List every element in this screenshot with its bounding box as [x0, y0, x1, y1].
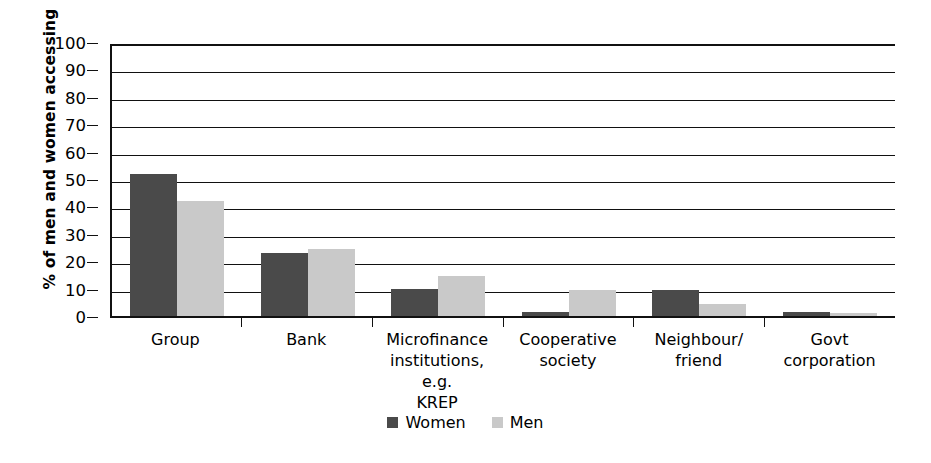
bar-chart: % of men and women accessing 10090807060…	[0, 0, 931, 463]
bar-men	[177, 201, 224, 316]
x-tick-mark	[764, 318, 765, 327]
x-axis-label-2: Microfinanceinstitutions, e.g.KREP	[372, 329, 503, 413]
bar-group	[373, 45, 504, 316]
bar-group	[634, 45, 765, 316]
y-tick-mark-0	[87, 317, 98, 318]
x-axis-label-line: society	[504, 350, 631, 371]
x-axis-label-line: friend	[635, 350, 762, 371]
x-axis-label-0: Group	[110, 329, 241, 413]
y-tick-mark-90	[87, 70, 98, 71]
y-tick-mark-100	[87, 43, 98, 44]
x-axis-label-line: Microfinance	[374, 329, 501, 350]
bar-group	[765, 45, 896, 316]
y-tick-label-30: 30	[65, 228, 86, 245]
x-axis-label-line: Govt	[766, 329, 893, 350]
y-tick-label-80: 80	[65, 91, 86, 108]
x-axis-label-1: Bank	[241, 329, 372, 413]
y-tick-mark-60	[87, 153, 98, 154]
legend-swatch-icon	[492, 417, 503, 428]
x-axis-label-4: Neighbour/friend	[633, 329, 764, 413]
bar-women	[391, 289, 438, 316]
y-tick-mark-40	[87, 207, 98, 208]
y-tick-label-40: 40	[65, 200, 86, 217]
y-tick-label-100: 100	[55, 36, 87, 53]
legend-swatch-icon	[387, 417, 398, 428]
x-axis-label-line: institutions, e.g.	[374, 350, 501, 392]
x-tick-mark	[633, 318, 634, 327]
chart-legend: WomenMen	[0, 413, 931, 432]
y-tick-label-90: 90	[65, 63, 86, 80]
x-axis-label-line: Bank	[243, 329, 370, 350]
bar-group	[112, 45, 243, 316]
y-tick-mark-10	[87, 290, 98, 291]
bar-men	[699, 304, 746, 316]
bar-men	[438, 276, 485, 316]
y-tick-label-0: 0	[76, 310, 87, 327]
y-axis-ticks: 1009080706050403020100	[0, 44, 110, 318]
bar-men	[308, 249, 355, 316]
y-tick-mark-70	[87, 125, 98, 126]
bar-group	[243, 45, 374, 316]
y-tick-label-70: 70	[65, 118, 86, 135]
x-axis-label-5: Govtcorporation	[764, 329, 895, 413]
legend-item-men: Men	[492, 413, 544, 432]
bar-group	[504, 45, 635, 316]
y-tick-mark-30	[87, 235, 98, 236]
legend-item-women: Women	[387, 413, 465, 432]
y-tick-label-50: 50	[65, 173, 86, 190]
y-tick-label-60: 60	[65, 145, 86, 162]
x-axis-label-line: Neighbour/	[635, 329, 762, 350]
x-axis-label-line: KREP	[374, 392, 501, 413]
x-axis-labels: GroupBankMicrofinanceinstitutions, e.g.K…	[110, 329, 895, 413]
y-tick-label-10: 10	[65, 282, 86, 299]
x-axis-ticks	[110, 318, 895, 328]
x-axis-label-3: Cooperativesociety	[502, 329, 633, 413]
x-tick-mark	[503, 318, 504, 327]
x-axis-label-line: Group	[112, 329, 239, 350]
bar-men	[830, 313, 877, 316]
y-tick-mark-20	[87, 262, 98, 263]
plot-area	[110, 44, 895, 318]
x-axis-label-line: Cooperative	[504, 329, 631, 350]
bars-layer	[112, 45, 895, 316]
x-axis-label-line: corporation	[766, 350, 893, 371]
bar-women	[261, 253, 308, 316]
y-tick-mark-80	[87, 98, 98, 99]
y-tick-mark-50	[87, 180, 98, 181]
y-tick-label-20: 20	[65, 255, 86, 272]
bar-women	[652, 290, 699, 316]
bar-women	[783, 312, 830, 316]
x-tick-mark	[241, 318, 242, 327]
legend-label: Women	[405, 413, 465, 432]
x-tick-mark	[372, 318, 373, 327]
bar-women	[522, 312, 569, 316]
bar-women	[130, 174, 177, 316]
bar-men	[569, 290, 616, 316]
legend-label: Men	[510, 413, 544, 432]
